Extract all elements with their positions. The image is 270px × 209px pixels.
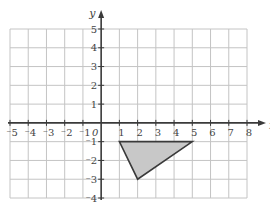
x-tick-label: ⁻3 (43, 127, 55, 138)
x-axis-label: x (269, 119, 270, 132)
y-tick-label: 3 (91, 61, 97, 72)
x-tick-label: 4 (173, 127, 179, 138)
x-tick-label: 8 (246, 127, 252, 138)
x-tick-label: 2 (136, 127, 142, 138)
x-tick-label: 3 (155, 127, 161, 138)
y-tick-label: 1 (91, 99, 97, 110)
x-tick-label: ⁻4 (24, 127, 36, 138)
y-tick-label: 2 (91, 80, 97, 91)
coordinate-grid-svg: ⁻5⁻4⁻3⁻2⁻11234567854321⁻1⁻2⁻3⁻40xy (0, 0, 270, 209)
y-tick-label: 4 (91, 42, 97, 53)
y-tick-label: 5 (91, 24, 97, 35)
x-tick-label: 1 (118, 127, 124, 138)
x-tick-label: 6 (209, 127, 215, 138)
coordinate-plane: ⁻5⁻4⁻3⁻2⁻11234567854321⁻1⁻2⁻3⁻40xy (0, 0, 270, 209)
x-tick-label: ⁻2 (61, 127, 73, 138)
x-tick-label: 5 (191, 127, 197, 138)
y-tick-label: ⁻2 (86, 155, 98, 166)
x-axis-arrow-icon (258, 120, 266, 126)
y-tick-label: ⁻3 (86, 174, 98, 185)
y-axis-label: y (88, 7, 96, 20)
y-axis-arrow-icon (98, 10, 104, 18)
origin-label: 0 (92, 127, 99, 138)
x-tick-label: ⁻5 (6, 127, 18, 138)
y-tick-label: ⁻4 (86, 193, 98, 204)
x-tick-label: 7 (228, 127, 234, 138)
